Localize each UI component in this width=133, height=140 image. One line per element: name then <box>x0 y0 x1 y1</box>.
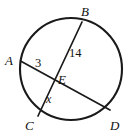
vertex-label-b: B <box>81 5 89 18</box>
segment-measure-ae: 3 <box>35 57 41 70</box>
vertex-label-d: D <box>110 119 119 132</box>
vertex-label-e: E <box>58 73 66 86</box>
vertex-label-a: A <box>5 54 13 67</box>
segment-measure-ce: x <box>46 93 51 105</box>
vertex-label-c: C <box>25 119 34 132</box>
geometry-figure: A B C D E 3 14 x <box>0 0 133 140</box>
chord-segment-BC <box>38 22 82 116</box>
segment-measure-be: 14 <box>69 47 82 60</box>
